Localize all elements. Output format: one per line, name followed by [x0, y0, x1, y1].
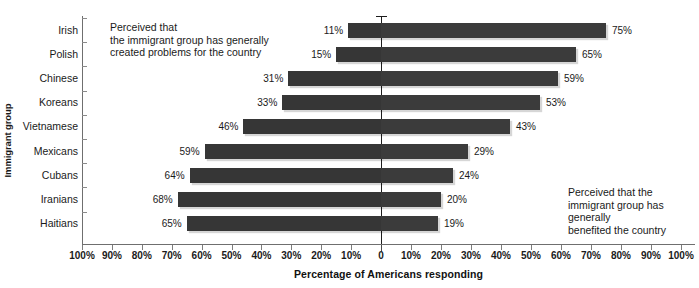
bar-value-label-right: 24% — [459, 168, 479, 183]
bar-right-benefited-country[interactable] — [381, 23, 606, 38]
bar-right-benefited-country[interactable] — [381, 168, 453, 183]
bar-right-benefited-country[interactable] — [381, 192, 441, 207]
category-label: Mexicans — [2, 145, 78, 157]
bar-value-label-left: 64% — [144, 168, 185, 183]
category-label: Cubans — [2, 169, 78, 181]
bar-left-created-problems[interactable] — [205, 144, 381, 159]
y-axis-tick — [82, 18, 87, 19]
x-axis-tick-labels: 100%90%80%70%60%50%40%30%20%10%010%20%30… — [82, 250, 695, 264]
bar-value-label-right: 20% — [447, 192, 467, 207]
bar-value-label-right: 75% — [612, 23, 632, 38]
category-label: Koreans — [2, 96, 78, 108]
bar-value-label-right: 65% — [582, 47, 602, 62]
y-axis-tick — [82, 91, 87, 92]
bar-left-created-problems[interactable] — [288, 71, 381, 86]
zero-line-cap — [376, 16, 387, 17]
bar-value-label-left: 46% — [197, 119, 238, 134]
bar-left-created-problems[interactable] — [243, 119, 381, 134]
bar-value-label-right: 19% — [444, 216, 464, 231]
y-axis-tick — [82, 163, 87, 164]
cropped-title-remnant — [0, 0, 699, 6]
cropped-title-text — [275, 0, 278, 1]
bar-left-created-problems[interactable] — [348, 23, 381, 38]
category-label: Vietnamese — [2, 120, 78, 132]
category-label: Chinese — [2, 72, 78, 84]
bar-left-created-problems[interactable] — [190, 168, 381, 183]
bar-right-benefited-country[interactable] — [381, 144, 468, 159]
x-axis-spine — [82, 244, 695, 245]
category-label: Haitians — [2, 217, 78, 229]
annotation-right-series: Perceived that the immigrant group has g… — [568, 186, 699, 236]
x-axis-title: Percentage of Americans responding — [82, 268, 695, 280]
bar-left-created-problems[interactable] — [187, 216, 381, 231]
bar-value-label-left: 65% — [141, 216, 182, 231]
bar-right-benefited-country[interactable] — [381, 47, 576, 62]
bar-left-created-problems[interactable] — [178, 192, 381, 207]
x-axis-tick-label: 100% — [661, 250, 699, 261]
category-label: Polish — [2, 48, 78, 60]
annotation-left-series: Perceived that the immigrant group has g… — [110, 21, 325, 59]
bar-right-benefited-country[interactable] — [381, 71, 558, 86]
bar-value-label-left: 33% — [236, 95, 277, 110]
y-axis-tick — [82, 139, 87, 140]
bar-value-label-left: 31% — [242, 71, 283, 86]
bar-value-label-left: 59% — [159, 144, 200, 159]
bar-value-label-right: 59% — [564, 71, 584, 86]
category-label: Irish — [2, 24, 78, 36]
bar-left-created-problems[interactable] — [336, 47, 381, 62]
y-axis-tick — [82, 115, 87, 116]
y-axis-spine — [82, 16, 83, 244]
diverging-bar-chart: Immigrant group IrishPolishChineseKorean… — [0, 0, 699, 288]
bar-value-label-right: 53% — [546, 95, 566, 110]
bar-right-benefited-country[interactable] — [381, 95, 540, 110]
bar-value-label-right: 29% — [474, 144, 494, 159]
bar-right-benefited-country[interactable] — [381, 119, 510, 134]
y-axis-tick — [82, 42, 87, 43]
bar-value-label-left: 68% — [132, 192, 173, 207]
bar-left-created-problems[interactable] — [282, 95, 381, 110]
y-axis-tick — [82, 66, 87, 67]
bar-right-benefited-country[interactable] — [381, 216, 438, 231]
category-label-list: IrishPolishChineseKoreansVietnameseMexic… — [0, 16, 78, 244]
y-axis-tick — [82, 212, 87, 213]
bar-value-label-right: 43% — [516, 119, 536, 134]
y-axis-tick — [82, 187, 87, 188]
category-label: Iranians — [2, 193, 78, 205]
